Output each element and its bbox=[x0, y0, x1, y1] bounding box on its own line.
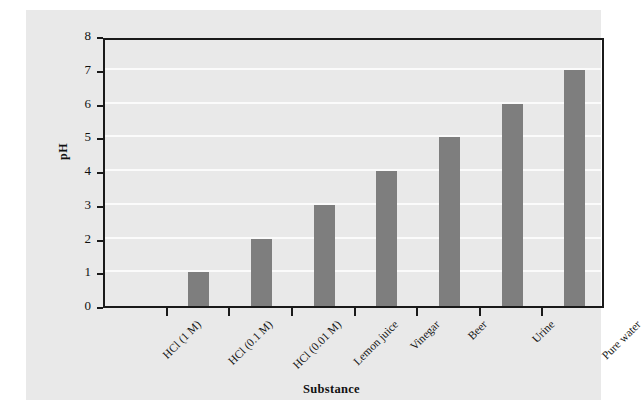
y-tick-label: 8 bbox=[85, 29, 92, 42]
y-tick-label: 4 bbox=[85, 164, 92, 177]
y-tick-label: 0 bbox=[85, 299, 92, 312]
x-tick-label: Beer bbox=[466, 318, 490, 342]
bar bbox=[439, 137, 460, 306]
y-tick-label: 6 bbox=[85, 97, 92, 110]
x-tick-label: Pure water bbox=[599, 318, 642, 361]
bar bbox=[188, 272, 209, 306]
x-tick-label: HCl (0.01 M) bbox=[290, 318, 343, 371]
bar-series bbox=[105, 40, 602, 306]
x-tick-label: Lemon juice bbox=[351, 318, 400, 367]
x-tick-label: Urine bbox=[530, 318, 557, 345]
bar bbox=[251, 239, 272, 307]
x-tick-label: HCl (1 M) bbox=[161, 318, 204, 361]
x-tick-label: HCl (0.1 M) bbox=[226, 318, 275, 367]
bar bbox=[564, 70, 585, 306]
y-tick-label: 7 bbox=[85, 63, 92, 76]
y-axis-ticks: 012345678 bbox=[26, 38, 103, 308]
y-tick-label: 1 bbox=[85, 265, 92, 278]
y-tick-label: 2 bbox=[85, 232, 92, 245]
bar bbox=[376, 171, 397, 306]
x-axis-title: Substance bbox=[26, 382, 637, 397]
bar bbox=[314, 205, 335, 306]
plot-area bbox=[103, 38, 604, 308]
y-tick-label: 5 bbox=[85, 130, 92, 143]
y-tick-label: 3 bbox=[85, 198, 92, 211]
chart-panel: pH 012345678 HCl (1 M)HCl (0.1 M)HCl (0.… bbox=[26, 10, 601, 400]
bar bbox=[502, 104, 523, 307]
x-tick-label: Vinegar bbox=[407, 318, 441, 352]
